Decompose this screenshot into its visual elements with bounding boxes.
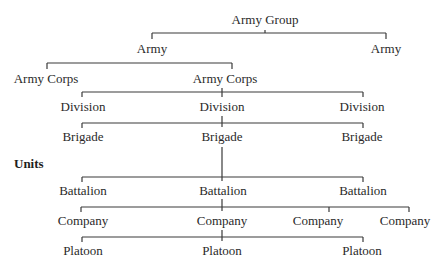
node-division-2: Division [200,100,245,114]
node-company-4: Company [380,214,431,228]
node-army-corps-right: Army Corps [193,72,258,86]
node-battalion-3: Battalion [339,184,387,198]
node-company-3: Company [293,214,344,228]
node-battalion-2: Battalion [199,184,247,198]
node-army-left: Army [137,42,167,56]
node-brigade-1: Brigade [62,130,103,144]
node-company-2: Company [197,214,248,228]
node-platoon-1: Platoon [63,244,103,258]
node-division-1: Division [61,100,106,114]
node-brigade-3: Brigade [341,130,382,144]
node-army-corps-left: Army Corps [14,72,79,86]
node-army-right: Army [371,42,401,56]
units-heading: Units [14,157,44,171]
node-company-1: Company [58,214,109,228]
node-battalion-1: Battalion [59,184,107,198]
node-platoon-3: Platoon [342,244,382,258]
military-hierarchy-diagram: Army Group Army Army Army Corps Army Cor… [0,0,445,274]
node-brigade-2: Brigade [201,130,242,144]
node-army-group: Army Group [232,13,299,27]
node-division-3: Division [340,100,385,114]
node-platoon-2: Platoon [202,244,242,258]
